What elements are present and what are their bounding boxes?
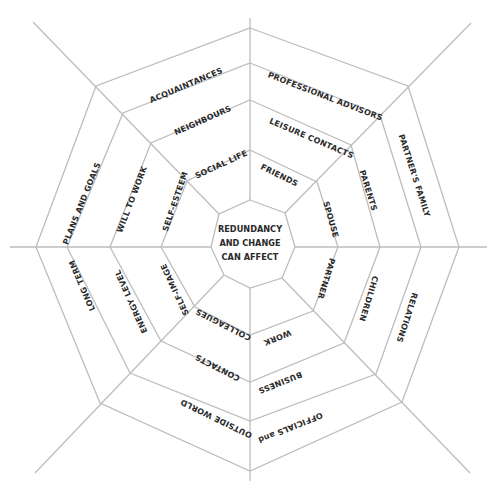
center-label: REDUNDANCY AND CHANGE CAN AFFECT bbox=[205, 222, 295, 264]
center-line: AND CHANGE bbox=[205, 236, 295, 250]
center-line: REDUNDANCY bbox=[205, 222, 295, 236]
center-line: CAN AFFECT bbox=[205, 250, 295, 264]
spider-web-diagram: REDUNDANCY AND CHANGE CAN AFFECT FRIENDS… bbox=[0, 0, 497, 488]
